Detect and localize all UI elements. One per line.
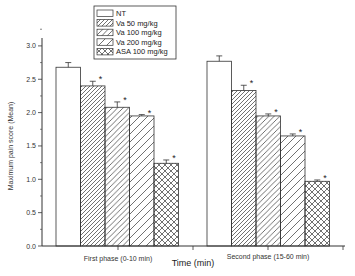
y-tick-label: 1.0 (26, 176, 36, 183)
significance-marker: * (274, 107, 278, 117)
significance-marker: * (172, 153, 176, 163)
y-ticks: 0.00.51.01.52.02.53.0 (26, 29, 42, 249)
y-tick-label: 2.5 (26, 76, 36, 83)
legend-label: ASA 100 mg/kg (116, 47, 168, 56)
significance-marker: * (148, 108, 152, 118)
legend-swatch (97, 20, 113, 27)
legend-swatch (97, 29, 113, 36)
significance-marker: * (123, 95, 127, 105)
y-tick-label: 0.0 (26, 243, 36, 250)
significance-marker: * (250, 78, 254, 88)
x-category-label-0: First phase (0-10 min) (84, 255, 152, 263)
bar-nt-1 (56, 67, 81, 246)
legend-label: Va 200 mg/kg (116, 38, 162, 47)
bar-va-50-mg-kg-1 (81, 86, 106, 246)
x-axis-title: Time (min) (172, 258, 215, 268)
bar-va-200-mg-kg-2 (281, 136, 306, 246)
legend-swatch (97, 10, 113, 17)
bar-chart: ******** 0.00.51.01.52.02.53.0 Maximum p… (0, 0, 355, 276)
x-category-label-1: Second phase (15-60 min) (227, 253, 310, 261)
bar-va-100-mg-kg-1 (105, 107, 130, 246)
legend-swatch (97, 39, 113, 46)
bars-layer: ******** (56, 56, 330, 246)
bar-asa-100-mg-kg-1 (154, 163, 179, 246)
y-tick-label: 1.5 (26, 142, 36, 149)
x-ticks (118, 246, 343, 250)
legend-label: NT (116, 9, 126, 18)
legend-label: Va 100 mg/kg (116, 28, 162, 37)
legend-swatch (97, 48, 113, 55)
y-tick-label: 3.0 (26, 42, 36, 49)
significance-marker: * (299, 127, 303, 137)
y-axis-title: Maximum pain score (Mean) (7, 102, 15, 191)
y-tick-label: 2.0 (26, 109, 36, 116)
significance-marker: * (99, 74, 103, 84)
bar-asa-100-mg-kg-2 (305, 181, 330, 246)
bar-nt-2 (207, 61, 232, 246)
bar-va-200-mg-kg-1 (130, 116, 155, 246)
significance-marker: * (323, 173, 327, 183)
bar-va-50-mg-kg-2 (232, 91, 257, 246)
bar-va-100-mg-kg-2 (256, 116, 281, 246)
legend-label: Va 50 mg/kg (116, 19, 158, 28)
y-tick-label: 0.5 (26, 209, 36, 216)
legend: NTVa 50 mg/kgVa 100 mg/kgVa 200 mg/kgASA… (94, 6, 176, 59)
